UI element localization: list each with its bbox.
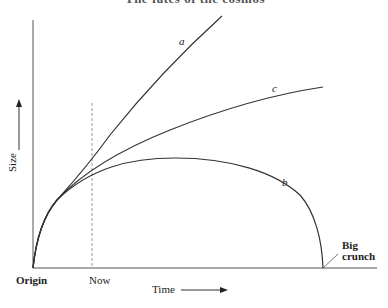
curve-a-label: a [179,35,185,47]
now-label: Now [89,274,110,286]
x-axis-label: Time [152,283,175,295]
diagram-canvas: The fates of the cosmos a c b Size Time … [0,0,388,308]
big-crunch-leader [323,254,338,268]
curve-a [33,16,222,268]
time-arrow-head [220,287,228,293]
y-axis-label: Size [6,142,18,172]
size-arrow-head [16,99,22,107]
big-crunch-label-line2: crunch [342,250,375,262]
curve-c-label: c [272,82,277,94]
big-crunch-label: Big crunch [342,240,375,262]
curve-b-label: b [282,176,288,188]
origin-label: Origin [16,274,47,286]
curve-b [33,158,323,268]
diagram-svg [0,0,388,308]
